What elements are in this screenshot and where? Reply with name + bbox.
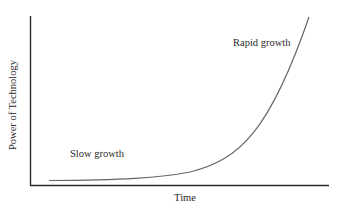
chart-canvas — [0, 0, 344, 217]
rapid-growth-annotation: Rapid growth — [233, 37, 290, 48]
x-axis-label: Time — [174, 192, 196, 203]
slow-growth-annotation: Slow growth — [70, 148, 124, 159]
y-axis-label: Power of Technology — [7, 60, 18, 150]
